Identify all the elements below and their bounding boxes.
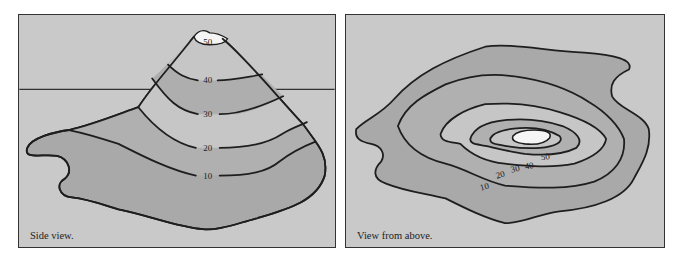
top-view-caption: View from above.	[357, 230, 432, 241]
side-view-panel: 50 40 30 20 10 Side view.	[18, 14, 336, 248]
contour-label-20: 20	[203, 143, 212, 153]
contour-label-10: 10	[203, 171, 212, 181]
top-view-panel: 50 40 30 20 10 View from above.	[345, 14, 665, 248]
summit-top	[513, 130, 551, 144]
contour-label-40: 40	[203, 75, 212, 85]
top-view-illustration: 50 40 30 20 10	[346, 15, 664, 247]
contour-label-50: 50	[203, 37, 212, 47]
side-view-illustration: 50 40 30 20 10	[19, 15, 335, 247]
contour-label-30: 30	[203, 109, 212, 119]
side-view-caption: Side view.	[30, 230, 74, 241]
